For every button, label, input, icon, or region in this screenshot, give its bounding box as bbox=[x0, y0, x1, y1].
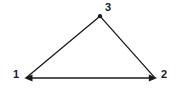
vertex-label-1: 1 bbox=[13, 69, 19, 80]
vertex-label-3: 3 bbox=[105, 2, 111, 13]
triangle-graphic bbox=[0, 0, 178, 91]
edge-1-3 bbox=[27, 17, 100, 78]
triangle-diagram: 1 2 3 bbox=[0, 0, 178, 91]
vertex-label-2: 2 bbox=[161, 69, 167, 80]
dot-vertex-3-icon bbox=[98, 14, 102, 18]
edge-3-2 bbox=[100, 17, 154, 78]
